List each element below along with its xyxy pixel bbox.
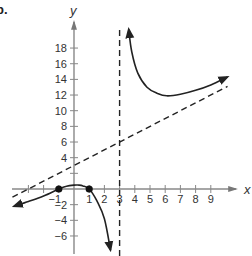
y-tick-label: 12 — [55, 89, 67, 101]
y-tick-label: −2 — [54, 199, 67, 211]
y-tick-label: 8 — [61, 120, 67, 132]
y-tick-label: 14 — [55, 73, 67, 85]
x-tick-label: 1 — [86, 193, 92, 205]
problem-label: b. — [0, 2, 8, 17]
x-tick-label: 8 — [193, 193, 199, 205]
y-tick-label: −4 — [54, 214, 67, 226]
y-axis-label: y — [69, 3, 78, 18]
y-tick-label: 4 — [61, 152, 67, 164]
x-tick-label: 9 — [208, 193, 214, 205]
y-tick-label: 10 — [55, 105, 67, 117]
asymptotes — [12, 30, 227, 256]
rational-function-graph: b. −1123456789−6−4−24681012141618 x y — [0, 0, 252, 256]
y-tick-label: 6 — [61, 136, 67, 148]
axes — [12, 22, 236, 254]
y-tick-label: −6 — [54, 230, 67, 242]
x-tick-label: 2 — [101, 193, 107, 205]
plot-area: −1123456789−6−4−24681012141618 x y — [0, 0, 252, 256]
function-curves — [14, 29, 228, 250]
y-tick-label: 18 — [55, 42, 67, 54]
x-intercept-point — [86, 185, 93, 192]
axis-ticks: −1123456789−6−4−24681012141618 — [28, 42, 213, 242]
x-tick-label: 6 — [162, 193, 168, 205]
y-tick-label: 16 — [55, 58, 67, 70]
x-tick-label: 7 — [177, 193, 183, 205]
x-tick-label: 4 — [132, 193, 138, 205]
x-intercept-point — [55, 185, 62, 192]
x-axis-label: x — [243, 182, 251, 197]
right-branch-curve — [129, 29, 228, 96]
x-tick-label: 5 — [147, 193, 153, 205]
